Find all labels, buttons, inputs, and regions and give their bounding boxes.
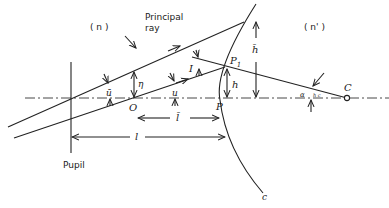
pupil-label: Pupil — [63, 160, 85, 170]
incidence-angle-label: I — [188, 63, 194, 74]
object-point-label: O — [129, 102, 137, 113]
i-tick-top — [196, 50, 198, 57]
principal-ray-label-2: ray — [145, 23, 160, 33]
eta-label: η — [138, 79, 144, 89]
medium-left-label: ( n ) — [90, 22, 108, 32]
u-bar-label: ū — [106, 88, 112, 98]
c-angle-sub-label: h c — [313, 92, 321, 98]
center-point — [344, 95, 349, 100]
c-angle-tick-top — [313, 73, 324, 86]
medium-right-label: ( n' ) — [304, 22, 325, 32]
center-label: C — [344, 82, 352, 93]
l-label: l — [135, 131, 138, 142]
c-angle-label: α — [300, 91, 305, 99]
l-bar-label: l̄ — [176, 112, 181, 123]
vertex-label: P — [215, 101, 223, 112]
principal-ray-arrow — [168, 46, 180, 51]
marginal-ray-arrow — [176, 79, 188, 83]
u-tick-top — [170, 73, 174, 81]
optics-diagram: ( n ) ( n' ) Principal ray Pupil O P P1 … — [0, 0, 389, 208]
principal-ray-label-1: Principal — [145, 12, 183, 22]
h-bar-label: h̄ — [252, 44, 258, 55]
h-label: h — [232, 79, 238, 90]
u-bar-tick-top — [104, 74, 108, 83]
normal-line — [192, 57, 347, 98]
principal-ray-pointer — [125, 36, 136, 48]
curvature-label: c — [262, 192, 267, 202]
u-label: u — [172, 88, 178, 98]
